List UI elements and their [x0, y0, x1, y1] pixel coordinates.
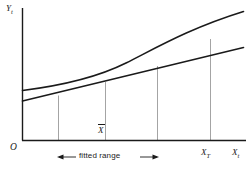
x-axis-label-subscript: t [238, 152, 240, 159]
y-axis-label-subscript: t [11, 8, 13, 15]
fitted-range-arrowhead-right [153, 155, 160, 160]
x-mean-label-text: X [98, 125, 104, 135]
x-mean-label: X [98, 124, 105, 135]
y-axis-label: Yt [6, 4, 13, 15]
figure-container: Yt Xt O X XT fitted range [0, 0, 250, 170]
x-terminal-label-subscript: T [207, 152, 211, 159]
chart-plot-area [0, 0, 250, 170]
x-axis-label: Xt [232, 148, 239, 159]
x-terminal-label: XT [201, 148, 210, 159]
fitted-range-arrowhead-left [57, 155, 64, 160]
droplines-group [59, 39, 211, 140]
fitted-range-label: fitted range [79, 152, 120, 160]
origin-label: O [10, 143, 17, 153]
